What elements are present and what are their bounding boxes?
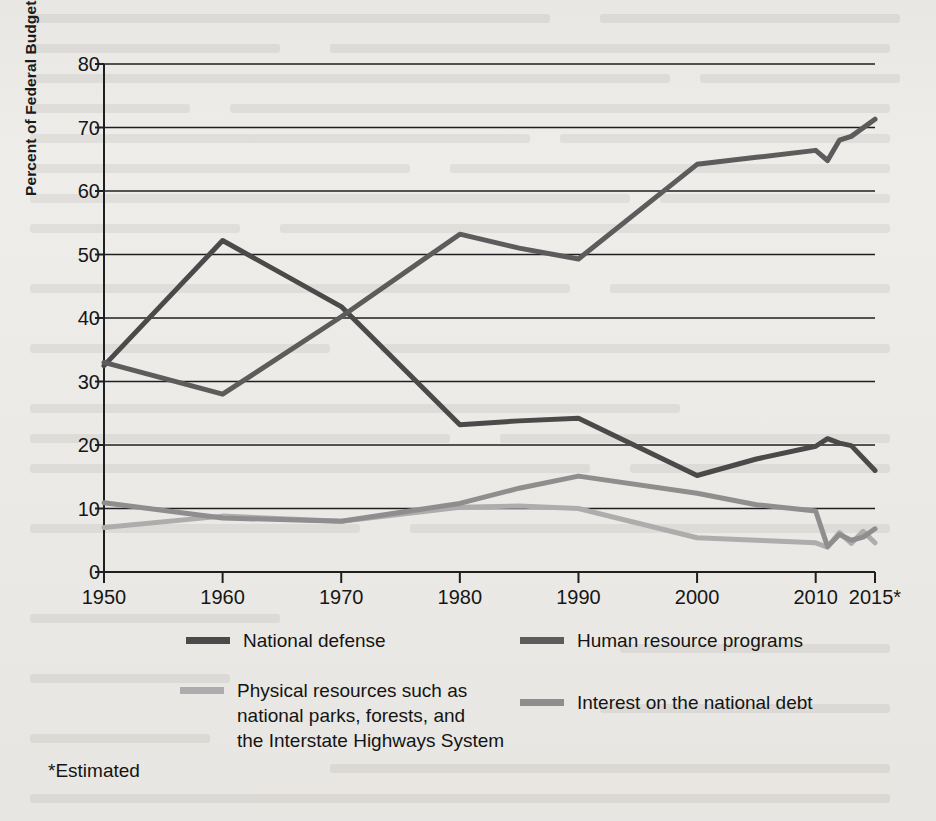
legend-item: National defense [186,628,386,653]
chart-figure: Percent of Federal Budget 01020304050607… [0,0,936,821]
legend-item: Human resource programs [520,628,803,653]
legend-label: Interest on the national debt [577,690,813,715]
legend-color-swatch [520,699,564,706]
legend-color-swatch [186,637,230,644]
x-tick-label: 1960 [200,586,245,609]
series-line [104,506,875,547]
x-tick-label: 2015* [849,586,901,609]
series-line [104,119,875,394]
legend-color-swatch [520,637,564,644]
legend-item: Physical resources such as national park… [180,678,504,753]
x-tick-label: 2010 [793,586,838,609]
x-tick-label: 2000 [675,586,720,609]
footnote-estimated: *Estimated [48,760,140,782]
x-tick-label: 1950 [82,586,127,609]
legend-color-swatch [180,687,224,694]
x-tick-label: 1980 [438,586,483,609]
legend-item: Interest on the national debt [520,690,813,715]
x-axis-ticks [104,572,875,583]
legend-label: National defense [243,628,386,653]
chart-legend: National defenseHuman resource programsP… [0,628,936,758]
legend-label: Physical resources such as national park… [237,678,504,753]
series-line [104,476,875,546]
legend-label: Human resource programs [577,628,803,653]
x-tick-label: 1970 [319,586,364,609]
series-line [104,241,875,476]
x-tick-label: 1990 [556,586,601,609]
data-series-lines [104,119,875,547]
